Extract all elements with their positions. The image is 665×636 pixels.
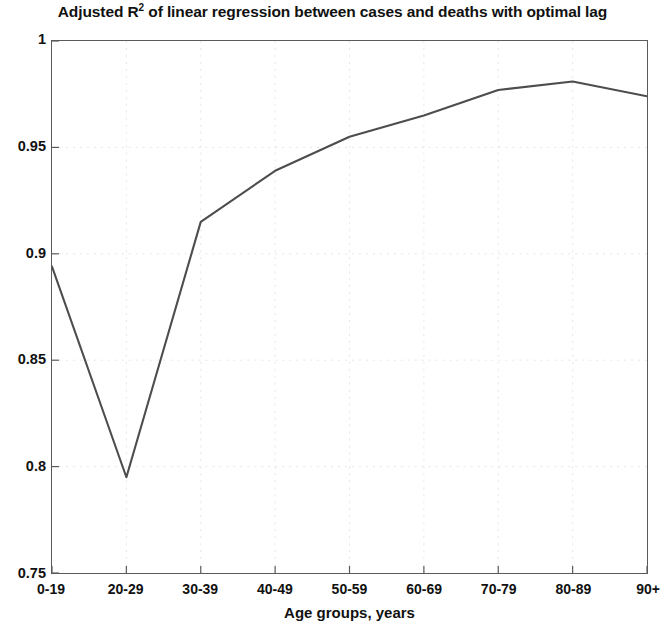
- x-tick-label: 50-59: [332, 582, 368, 596]
- x-tick-label: 30-39: [182, 582, 218, 596]
- x-tick-label: 70-79: [481, 582, 517, 596]
- x-tick-label: 60-69: [406, 582, 442, 596]
- x-tick-label: 80-89: [555, 582, 591, 596]
- x-tick-label: 90+: [636, 582, 660, 596]
- chart-figure: Adjusted R2 of linear regression between…: [0, 0, 665, 636]
- x-axis-title: Age groups, years: [51, 604, 648, 621]
- x-tick-label: 0-19: [37, 582, 65, 596]
- x-tick-label: 40-49: [257, 582, 293, 596]
- x-axis-tick-labels: 0-1920-2930-3940-4950-5960-6970-7980-899…: [0, 0, 665, 636]
- x-tick-label: 20-29: [108, 582, 144, 596]
